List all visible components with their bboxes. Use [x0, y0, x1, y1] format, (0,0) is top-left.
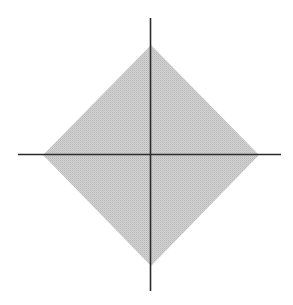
plot-svg: [0, 0, 293, 305]
figure-canvas: [0, 0, 293, 305]
